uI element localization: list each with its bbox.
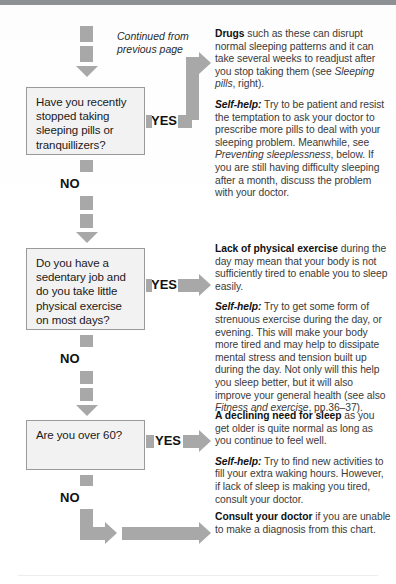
- no-label-q2: NO: [60, 351, 80, 366]
- q2-no-seg-1: [80, 335, 93, 347]
- q2-no-arrow: [76, 405, 98, 416]
- question-box-sedentary-job[interactable]: Do you have a sedentary job and do you t…: [26, 248, 145, 330]
- answer-exercise-selfhelp-a: Try to get some form of strenuous exerci…: [215, 301, 385, 400]
- answer-declining-para-2: Self-help: Try to find new activities to…: [215, 456, 391, 506]
- q1-yes-seg-v: [186, 62, 199, 120]
- answer-drugs-para-2: Self-help: Try to be patient and resist …: [215, 99, 391, 200]
- entry-stem-seg-2: [80, 46, 93, 62]
- page-top-band: [0, 0, 396, 5]
- q3-no-seg-1: [80, 475, 93, 486]
- answer-exercise-lead: Lack of physical exercise: [215, 243, 338, 254]
- q1-no-seg-1: [80, 160, 93, 172]
- q3-no-arrow: [105, 522, 117, 544]
- q3-yes-stub: [146, 435, 154, 448]
- question-box-over-60[interactable]: Are you over 60?: [26, 420, 145, 470]
- question-box-sleeping-pills[interactable]: Have you recently stopped taking sleepin…: [26, 87, 145, 155]
- answer-consult-para-1: Consult your doctor if you are unable to…: [215, 511, 391, 536]
- q1-yes-arrow: [199, 52, 211, 74]
- q1-yes-stub: [146, 115, 152, 128]
- q3-no-elbow: [80, 527, 106, 540]
- entry-stem-seg-1: [80, 26, 93, 42]
- answer-drugs-selfhelp-label: Self-help:: [215, 99, 261, 110]
- answer-exercise-para-2: Self-help: Try to get some form of stren…: [215, 301, 391, 414]
- bottom-long-bar: [122, 527, 200, 540]
- page-bottom-rule: [18, 575, 378, 576]
- answer-drugs-para-1: Drugs such as these can disrupt normal s…: [215, 28, 391, 91]
- entry-arrow-into-q1: [76, 66, 98, 77]
- q1-no-seg-2: [80, 196, 93, 210]
- answer-declining-lead: A declining need for sleep: [215, 410, 341, 421]
- q2-no-seg-3: [80, 388, 93, 401]
- answer-block-exercise: Lack of physical exercise during the day…: [215, 243, 391, 415]
- no-label-q3: NO: [60, 490, 80, 505]
- q2-yes-arrow: [199, 274, 211, 296]
- answer-drugs-lead-tail: , right).: [233, 78, 265, 89]
- q1-no-seg-3: [80, 214, 93, 228]
- q3-yes-arrow: [199, 430, 211, 452]
- q2-no-seg-2: [80, 371, 93, 384]
- q1-no-arrow: [76, 232, 98, 243]
- bottom-arrow-into-consult: [199, 522, 211, 544]
- answer-exercise-para-1: Lack of physical exercise during the day…: [215, 243, 391, 293]
- q1-yes-seg-h2: [186, 57, 200, 70]
- answer-drugs-lead: Drugs: [215, 28, 245, 39]
- answer-block-declining-sleep: A declining need for sleep as you get ol…: [215, 410, 391, 506]
- q2-yes-seg: [178, 279, 200, 292]
- no-label-q1: NO: [60, 176, 80, 191]
- q3-yes-seg: [183, 435, 200, 448]
- answer-exercise-selfhelp-label: Self-help:: [215, 301, 261, 312]
- answer-block-drugs: Drugs such as these can disrupt normal s…: [215, 28, 391, 200]
- answer-declining-para-1: A declining need for sleep as you get ol…: [215, 410, 391, 448]
- yes-label-q3: YES: [155, 433, 181, 448]
- answer-declining-selfhelp-label: Self-help:: [215, 456, 261, 467]
- answer-consult-lead: Consult your doctor: [215, 511, 312, 522]
- yes-label-q1: YES: [151, 113, 177, 128]
- answer-block-consult-doctor: Consult your doctor if you are unable to…: [215, 511, 391, 536]
- chart-page: Continued from previous page Have you re…: [0, 0, 396, 584]
- yes-label-q2: YES: [151, 277, 177, 292]
- answer-drugs-selfhelp-ref: Preventing sleeplessness: [215, 149, 331, 160]
- q2-yes-stub: [146, 279, 152, 292]
